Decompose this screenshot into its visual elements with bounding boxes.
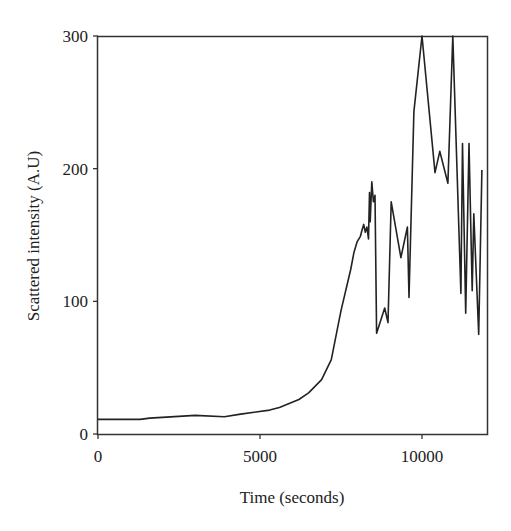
x-tick-label: 5000 (243, 447, 277, 466)
intensity-line (98, 36, 482, 419)
y-tick-label: 300 (63, 27, 89, 46)
x-tick-label: 0 (94, 447, 103, 466)
x-axis-ticks: 0500010000 (94, 434, 444, 466)
y-tick-label: 100 (63, 292, 89, 311)
x-tick-label: 10000 (401, 447, 444, 466)
y-axis-title: Scattered intensity (A.U) (24, 151, 43, 321)
y-axis-ticks: 0100200300 (63, 27, 99, 444)
y-tick-label: 200 (63, 160, 89, 179)
y-tick-label: 0 (80, 425, 89, 444)
plot-frame (98, 37, 488, 435)
x-axis-title: Time (seconds) (240, 488, 345, 507)
chart: 0100200300 0500010000 Time (seconds) Sca… (0, 0, 511, 531)
